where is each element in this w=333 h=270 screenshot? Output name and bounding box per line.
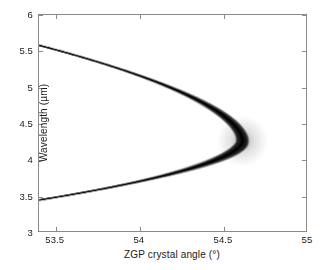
y-tick-label: 6 xyxy=(28,9,33,20)
y-tick-mark xyxy=(302,15,306,16)
y-tick-mark xyxy=(302,51,306,52)
x-tick-mark xyxy=(56,15,57,19)
y-tick-label: 4 xyxy=(28,154,33,165)
plot-area xyxy=(38,14,307,232)
y-tick-mark xyxy=(302,124,306,125)
x-tick-mark xyxy=(140,15,141,19)
y-axis-title: Wavelength (µm) xyxy=(38,84,49,162)
y-tick-mark xyxy=(302,88,306,89)
y-tick-label: 3 xyxy=(28,227,33,238)
y-tick-label: 5 xyxy=(28,81,33,92)
x-axis-title: ZGP crystal angle (°) xyxy=(124,249,220,260)
x-tick-mark xyxy=(224,15,225,19)
x-tick-label: 55 xyxy=(302,234,313,245)
y-tick-mark xyxy=(39,15,43,16)
figure-container: 53.55454.555 33.544.555.56 ZGP crystal a… xyxy=(0,0,333,270)
y-tick-mark xyxy=(302,197,306,198)
y-tick-mark xyxy=(302,160,306,161)
y-tick-mark xyxy=(39,51,43,52)
x-tick-mark xyxy=(56,227,57,231)
x-tick-label: 54.5 xyxy=(213,234,232,245)
y-tick-mark xyxy=(39,197,43,198)
x-tick-label: 53.5 xyxy=(45,234,64,245)
y-tick-label: 5.5 xyxy=(19,45,33,56)
y-tick-label: 4.5 xyxy=(19,118,33,129)
x-tick-label: 54 xyxy=(133,234,144,245)
y-tick-label: 3.5 xyxy=(19,190,33,201)
tuning-curve-canvas xyxy=(39,15,306,231)
x-tick-mark xyxy=(224,227,225,231)
x-tick-mark xyxy=(140,227,141,231)
